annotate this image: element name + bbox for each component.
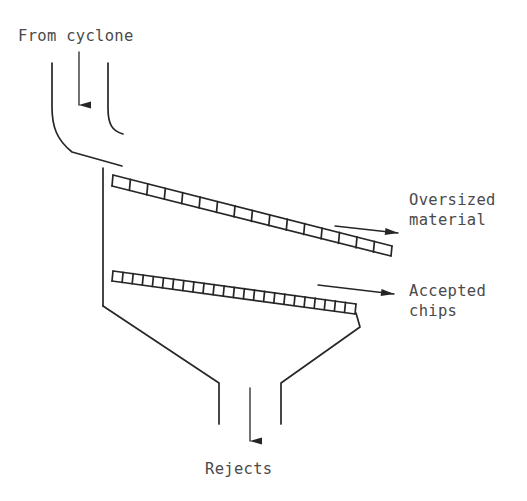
label-accepted-chips: Acceptedchips	[409, 281, 486, 321]
label-oversized-material: Oversizedmaterial	[409, 190, 496, 230]
chip-screen-diagram	[0, 0, 527, 501]
reject-hopper-left-wall	[103, 306, 219, 424]
label-from-cyclone: From cyclone	[18, 26, 134, 46]
label-accepted-line2: chips	[409, 302, 457, 320]
label-oversized-line2: material	[409, 211, 486, 229]
oversized-flow-arrow	[335, 226, 398, 233]
label-oversized-line1: Oversized	[409, 191, 496, 209]
inlet-chute-right-wall	[108, 63, 123, 134]
label-rejects: Rejects	[205, 459, 272, 479]
accepted-flow-arrow	[318, 285, 394, 294]
upper-screen-deck	[112, 175, 392, 256]
inlet-chute-left-wall	[52, 63, 122, 166]
reject-hopper-right-wall	[281, 313, 360, 424]
lower-screen-deck	[112, 271, 356, 314]
diagram-canvas: From cyclone Oversizedmaterial Acceptedc…	[0, 0, 527, 501]
label-accepted-line1: Accepted	[409, 282, 486, 300]
